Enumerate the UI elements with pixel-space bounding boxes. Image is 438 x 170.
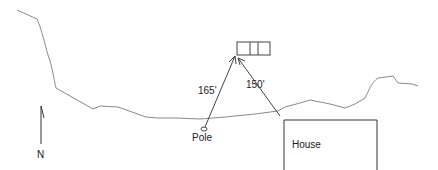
site-plan-diagram: 165' 150' Pole House N <box>0 0 438 170</box>
distance-label-150: 150' <box>246 80 265 90</box>
site-plan-svg <box>0 0 438 170</box>
pole-label: Pole <box>192 133 212 143</box>
distance-label-165: 165' <box>198 86 217 96</box>
house-label: House <box>292 140 321 150</box>
north-label: N <box>37 150 44 160</box>
terrain-curve <box>17 10 418 119</box>
solar-panel-array <box>237 42 270 55</box>
pole-marker <box>201 127 207 131</box>
